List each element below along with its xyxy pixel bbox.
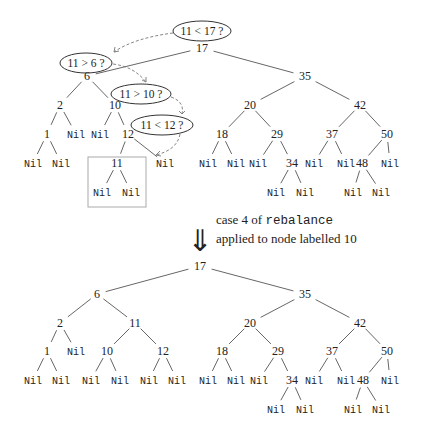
- after-edge: [68, 299, 91, 317]
- after-edge: [64, 330, 71, 342]
- before-edge: [50, 141, 56, 154]
- before-node-10: 10: [109, 98, 121, 112]
- after-edge: [141, 329, 156, 344]
- comparison-label: 11 < 12 ?: [141, 119, 184, 131]
- after-node-35: 35: [299, 287, 311, 301]
- before-node-17: 17: [196, 41, 208, 55]
- before-edge: [67, 82, 82, 98]
- after-edge: [212, 269, 294, 291]
- after-edge: [110, 358, 116, 371]
- before-node-29: 29: [271, 127, 283, 141]
- after-node-29: 29: [272, 344, 284, 358]
- after-edge: [356, 388, 360, 400]
- before-edge: [105, 112, 112, 125]
- comparison-label: 11 > 6 ?: [67, 57, 104, 69]
- after-edge: [335, 358, 341, 371]
- before-node-12: 12: [122, 127, 134, 141]
- before-node-20: 20: [244, 98, 256, 112]
- after-node-50: 50: [381, 344, 393, 358]
- after-edge: [212, 358, 218, 371]
- after-edge: [367, 387, 376, 401]
- before-edge: [356, 171, 360, 183]
- after-edge: [37, 358, 43, 371]
- after-nil-leaf: Nil: [381, 376, 399, 387]
- before-nil-leaf: Nil: [249, 159, 267, 170]
- before-nil-leaf: Nil: [91, 130, 109, 141]
- after-nil-leaf: Nil: [337, 376, 355, 387]
- after-nil-leaf: Nil: [227, 376, 245, 387]
- after-edge: [319, 358, 328, 372]
- after-node-11: 11: [129, 316, 141, 330]
- after-node-1: 1: [44, 344, 50, 358]
- after-nil-leaf: Nil: [344, 405, 362, 416]
- after-edge: [261, 300, 295, 318]
- before-edge: [212, 141, 218, 154]
- after-nil-leaf: Nil: [305, 376, 323, 387]
- after-node-2: 2: [57, 316, 63, 330]
- after-node-34: 34: [286, 373, 298, 387]
- after-edge: [96, 358, 103, 371]
- before-nil-leaf: Nil: [344, 188, 362, 199]
- after-node-48: 48: [357, 373, 369, 387]
- after-node-20: 20: [244, 316, 256, 330]
- before-edge: [369, 140, 382, 155]
- before-edge: [121, 141, 126, 153]
- after-edge: [388, 359, 389, 370]
- before-edge: [388, 142, 389, 153]
- before-nil-leaf: Nil: [381, 159, 399, 170]
- before-nil-leaf: Nil: [24, 159, 42, 170]
- before-edge: [225, 141, 231, 154]
- after-edge: [369, 357, 382, 372]
- transition-caption-line1: case 4 of rebalance: [216, 212, 333, 228]
- before-edge: [281, 141, 288, 154]
- before-edge: [37, 141, 43, 154]
- after-edge: [295, 387, 301, 400]
- before-nil-leaf: Nil: [67, 130, 85, 141]
- before-node-11: 11: [111, 156, 123, 170]
- after-edge: [281, 358, 287, 371]
- comparison-label: 11 < 17 ?: [181, 25, 224, 37]
- after-node-10: 10: [101, 344, 113, 358]
- after-node-37: 37: [326, 344, 338, 358]
- before-nil-leaf: Nil: [227, 159, 245, 170]
- before-node-42: 42: [354, 98, 366, 112]
- after-edge: [366, 329, 381, 344]
- before-edge: [281, 170, 288, 183]
- before-node-6: 6: [84, 69, 90, 83]
- before-edge: [339, 111, 354, 127]
- before-edge: [295, 170, 301, 183]
- before-edge: [107, 170, 114, 183]
- before-nil-leaf: Nil: [52, 159, 70, 170]
- after-edge: [225, 358, 231, 371]
- after-node-6: 6: [94, 287, 100, 301]
- after-node-42: 42: [354, 316, 366, 330]
- before-edge: [64, 112, 71, 125]
- after-nil-leaf: Nil: [52, 376, 70, 387]
- before-node-34: 34: [286, 156, 298, 170]
- before-edge: [118, 112, 124, 125]
- before-node-1: 1: [44, 127, 50, 141]
- after-nil-leaf: Nil: [250, 376, 268, 387]
- after-nil-leaf: Nil: [372, 405, 390, 416]
- after-edge: [106, 269, 189, 291]
- after-nil-leaf: Nil: [82, 376, 100, 387]
- before-edge: [316, 82, 350, 100]
- before-node-50: 50: [381, 127, 393, 141]
- before-edge: [214, 51, 294, 73]
- before-edge: [261, 82, 295, 100]
- before-node-35: 35: [299, 69, 311, 83]
- after-node-17: 17: [194, 259, 206, 273]
- after-edge: [339, 329, 354, 344]
- tree-rebalance-diagram: 11 < 17 ?11 > 6 ?11 > 10 ?11 < 12 ? 1763…: [0, 0, 430, 431]
- before-node-18: 18: [216, 127, 228, 141]
- after-nil-leaf: Nil: [24, 376, 42, 387]
- after-nil-leaf: Nil: [296, 405, 314, 416]
- after-nil-leaf: Nil: [168, 376, 186, 387]
- before-nil-leaf: Nil: [305, 159, 323, 170]
- before-nil-leaf: Nil: [122, 188, 140, 199]
- before-edge: [255, 111, 270, 127]
- after-edge: [51, 330, 56, 342]
- after-edge: [281, 387, 288, 400]
- after-edge: [316, 300, 350, 318]
- before-node-37: 37: [326, 127, 338, 141]
